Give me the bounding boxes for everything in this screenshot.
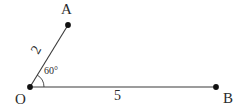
angle-measure-label-O: 60°	[44, 66, 58, 76]
vertex-label-O: O	[15, 92, 26, 107]
segment-OA	[30, 25, 68, 87]
geometry-canvas	[0, 0, 243, 111]
side-length-label-OB: 5	[114, 89, 121, 103]
vertex-dot-A	[65, 22, 71, 28]
vertex-label-B: B	[223, 91, 233, 106]
vertex-dot-B	[213, 84, 219, 90]
angle-arc-O	[37, 75, 44, 87]
vertex-dot-O	[27, 84, 33, 90]
vertex-label-A: A	[61, 2, 72, 17]
geometry-diagram: A B O 2 5 60°	[0, 0, 243, 111]
